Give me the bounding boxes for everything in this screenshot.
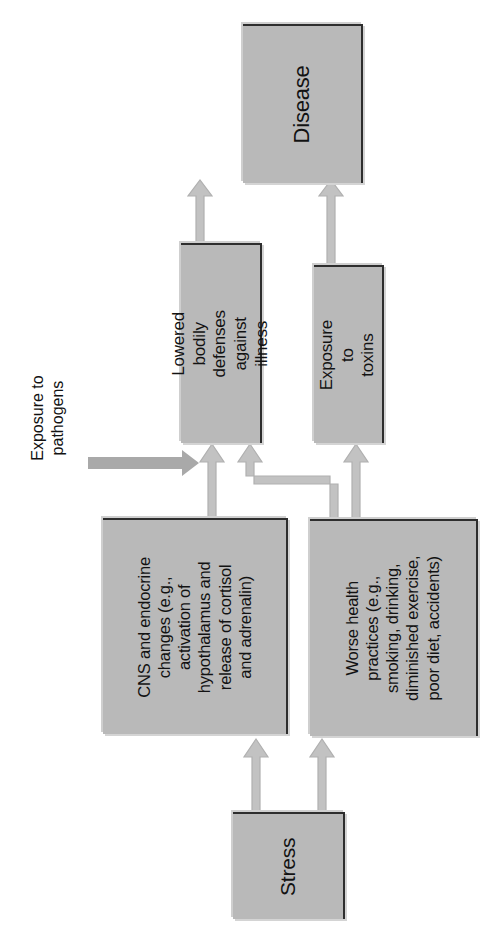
node-disease[interactable]: Disease: [243, 24, 363, 183]
node-lowered-defenses-label: Lowered bodily defenses against illness: [169, 304, 273, 383]
arrow-stress-to-practices: [310, 739, 334, 812]
diagram-canvas: Disease Lowered bodily defenses against …: [0, 0, 498, 949]
arrow-toxins-to-disease: [319, 180, 343, 265]
arrow-practices-to-lowered: [238, 444, 338, 519]
node-disease-label: Disease: [289, 65, 316, 143]
node-stress-label: Stress: [275, 837, 301, 895]
node-cns-endocrine-changes[interactable]: CNS and endocrine changes (e.g., activat…: [103, 518, 288, 734]
node-worse-health-practices-label: Worse health practices (e.g., smoking, d…: [343, 556, 444, 701]
node-exposure-to-toxins-label: Exposure to toxins: [317, 320, 379, 390]
node-stress[interactable]: Stress: [233, 812, 345, 919]
arrow-pathogens-to-lowered: [88, 450, 199, 476]
arrow-stress-to-cns: [244, 739, 268, 812]
node-exposure-to-toxins[interactable]: Exposure to toxins: [314, 265, 384, 443]
arrow-lowered-to-disease: [188, 180, 212, 243]
node-cns-endocrine-changes-label: CNS and endocrine changes (e.g., activat…: [134, 557, 255, 698]
node-lowered-defenses[interactable]: Lowered bodily defenses against illness: [181, 243, 262, 443]
caption-exposure-to-pathogens: Exposure to pathogens: [28, 348, 68, 488]
arrow-practices-to-toxins: [344, 444, 368, 519]
arrow-cns-to-lowered: [200, 444, 224, 518]
node-worse-health-practices[interactable]: Worse health practices (e.g., smoking, d…: [310, 519, 478, 736]
